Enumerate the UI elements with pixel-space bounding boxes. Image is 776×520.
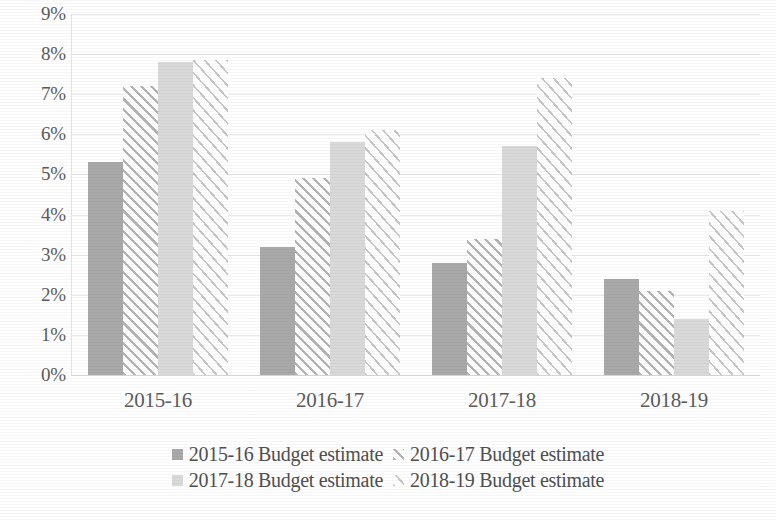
y-axis-tick-label: 4% bbox=[8, 205, 66, 224]
bar-series-1 bbox=[604, 279, 639, 375]
bar-series-2 bbox=[123, 86, 158, 375]
bar-group bbox=[72, 14, 244, 375]
legend-label: 2018-19 Budget estimate bbox=[410, 469, 604, 491]
x-axis-tick-label: 2018-19 bbox=[588, 388, 760, 412]
bar-series-4 bbox=[365, 130, 400, 375]
y-axis-tick-label: 7% bbox=[8, 84, 66, 103]
legend-label: 2017-18 Budget estimate bbox=[189, 469, 383, 491]
legend-row: 2017-18 Budget estimate2018-19 Budget es… bbox=[172, 469, 604, 491]
bar-series-3 bbox=[674, 319, 709, 375]
bar-series-3 bbox=[502, 146, 537, 375]
legend-item[interactable]: 2015-16 Budget estimate bbox=[172, 443, 383, 465]
legend-row: 2015-16 Budget estimate2016-17 Budget es… bbox=[172, 443, 604, 465]
y-axis: 9%8%7%6%5%4%3%2%1%0% bbox=[0, 0, 66, 520]
legend-swatch-icon bbox=[393, 475, 404, 486]
x-axis-tick-label: 2017-18 bbox=[416, 388, 588, 412]
bar-series-1 bbox=[88, 162, 123, 375]
bar-series-4 bbox=[709, 211, 744, 375]
bar-group bbox=[244, 14, 416, 375]
bar-series-3 bbox=[330, 142, 365, 375]
legend-item[interactable]: 2018-19 Budget estimate bbox=[393, 469, 604, 491]
bar-series-4 bbox=[193, 60, 228, 375]
bar-series-1 bbox=[260, 247, 295, 375]
bar-group bbox=[416, 14, 588, 375]
bar-chart: 9%8%7%6%5%4%3%2%1%0% 2015-162016-172017-… bbox=[0, 0, 776, 520]
y-axis-tick-label: 9% bbox=[8, 4, 66, 23]
bar-series-3 bbox=[158, 62, 193, 375]
legend-label: 2016-17 Budget estimate bbox=[410, 443, 604, 465]
x-axis-baseline bbox=[72, 375, 760, 376]
x-axis-tick-label: 2015-16 bbox=[72, 388, 244, 412]
bar-series-2 bbox=[467, 239, 502, 375]
bar-series-1 bbox=[432, 263, 467, 375]
bar-series-2 bbox=[639, 291, 674, 375]
legend-swatch-icon bbox=[172, 449, 183, 460]
y-axis-tick-label: 1% bbox=[8, 325, 66, 344]
y-axis-tick-label: 0% bbox=[8, 365, 66, 384]
legend-item[interactable]: 2017-18 Budget estimate bbox=[172, 469, 383, 491]
bar-series-2 bbox=[295, 178, 330, 375]
bar-group bbox=[588, 14, 760, 375]
y-axis-tick-label: 5% bbox=[8, 164, 66, 183]
x-axis-tick-label: 2016-17 bbox=[244, 388, 416, 412]
legend-swatch-icon bbox=[172, 475, 183, 486]
y-axis-tick-label: 8% bbox=[8, 44, 66, 63]
y-axis-tick-label: 2% bbox=[8, 285, 66, 304]
y-axis-tick-label: 3% bbox=[8, 245, 66, 264]
legend-item[interactable]: 2016-17 Budget estimate bbox=[393, 443, 604, 465]
bar-series-4 bbox=[537, 78, 572, 375]
plot-area bbox=[72, 14, 760, 375]
y-axis-tick-label: 6% bbox=[8, 124, 66, 143]
chart-legend: 2015-16 Budget estimate2016-17 Budget es… bbox=[0, 443, 776, 491]
legend-swatch-icon bbox=[393, 449, 404, 460]
legend-label: 2015-16 Budget estimate bbox=[189, 443, 383, 465]
